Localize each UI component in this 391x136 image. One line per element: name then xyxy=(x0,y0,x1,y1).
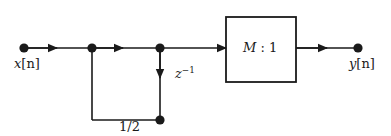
node-tap-left xyxy=(87,43,96,52)
block-diagram-figure: x[n] y[n] z−1 1/2 M : 1 xyxy=(0,0,391,136)
decimator-block-label: M : 1 xyxy=(243,41,277,54)
gain-label: 1/2 xyxy=(119,120,140,133)
delay-element-label: z−1 xyxy=(175,66,195,80)
decimator-separator: : xyxy=(260,40,264,55)
node-input-terminal xyxy=(19,43,28,52)
diagram-canvas xyxy=(0,0,391,136)
node-feedback xyxy=(155,115,164,124)
node-tap-right xyxy=(155,43,164,52)
node-output-terminal xyxy=(353,43,362,52)
input-signal-label: x[n] xyxy=(14,57,40,70)
delay-exponent: −1 xyxy=(182,65,195,75)
output-signal-index: [n] xyxy=(356,56,375,71)
delay-base: z xyxy=(175,66,182,81)
decimator-ratio: 1 xyxy=(269,40,277,55)
decimator-factor: M xyxy=(243,40,256,55)
output-signal-label: y[n] xyxy=(349,57,375,70)
input-signal-index: [n] xyxy=(21,56,40,71)
